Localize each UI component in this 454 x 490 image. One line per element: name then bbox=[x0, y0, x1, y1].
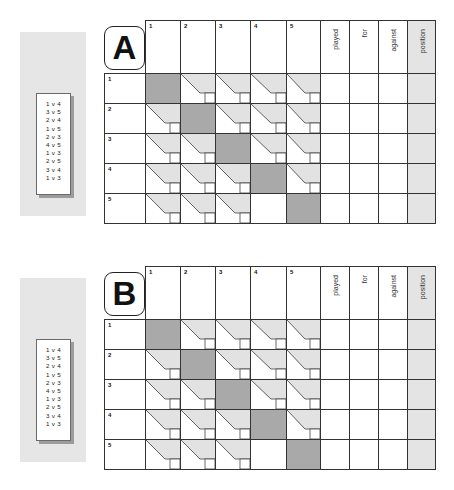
score-cell[interactable] bbox=[145, 133, 181, 164]
row-header-team-3: 3 bbox=[104, 133, 146, 164]
score-cell[interactable] bbox=[145, 379, 181, 410]
score-cell[interactable] bbox=[145, 193, 181, 224]
played-input-cell[interactable] bbox=[320, 193, 350, 224]
played-input-cell[interactable] bbox=[320, 319, 350, 350]
score-cell[interactable] bbox=[145, 439, 181, 470]
score-cell[interactable] bbox=[286, 73, 321, 104]
score-cell[interactable] bbox=[145, 349, 181, 380]
played-input-cell[interactable] bbox=[320, 163, 350, 194]
score-entry-icon bbox=[181, 320, 215, 349]
for-input-cell[interactable] bbox=[349, 133, 379, 164]
position-input-cell[interactable] bbox=[407, 103, 436, 134]
for-input-cell[interactable] bbox=[349, 409, 379, 440]
score-cell[interactable] bbox=[215, 319, 251, 350]
diagonal-blocked-cell bbox=[250, 409, 287, 440]
score-cell[interactable] bbox=[250, 319, 287, 350]
score-cell[interactable] bbox=[215, 349, 251, 380]
for-input-cell[interactable] bbox=[349, 379, 379, 410]
played-input-cell[interactable] bbox=[320, 379, 350, 410]
score-cell[interactable] bbox=[250, 103, 287, 134]
stat-header-label: against bbox=[390, 275, 397, 298]
score-entry-icon bbox=[181, 410, 215, 439]
score-cell[interactable] bbox=[180, 379, 216, 410]
for-input-cell[interactable] bbox=[349, 349, 379, 380]
score-cell[interactable] bbox=[215, 73, 251, 104]
fixture-item: 2 v 4 bbox=[37, 362, 70, 370]
against-input-cell[interactable] bbox=[378, 133, 408, 164]
for-input-cell[interactable] bbox=[349, 103, 379, 134]
fixture-item: 1 v 5 bbox=[37, 371, 70, 379]
empty-result-cell[interactable] bbox=[250, 439, 287, 470]
against-input-cell[interactable] bbox=[378, 379, 408, 410]
score-entry-icon bbox=[287, 410, 320, 439]
score-cell[interactable] bbox=[180, 319, 216, 350]
score-cell[interactable] bbox=[180, 73, 216, 104]
played-input-cell[interactable] bbox=[320, 73, 350, 104]
position-input-cell[interactable] bbox=[407, 73, 436, 104]
stat-header-label: against bbox=[390, 29, 397, 52]
against-input-cell[interactable] bbox=[378, 409, 408, 440]
score-cell[interactable] bbox=[286, 163, 321, 194]
score-cell[interactable] bbox=[145, 103, 181, 134]
stat-header-label: for bbox=[361, 29, 368, 37]
played-input-cell[interactable] bbox=[320, 103, 350, 134]
score-cell[interactable] bbox=[250, 133, 287, 164]
score-cell[interactable] bbox=[215, 193, 251, 224]
for-input-cell[interactable] bbox=[349, 193, 379, 224]
score-cell[interactable] bbox=[286, 133, 321, 164]
score-cell[interactable] bbox=[180, 409, 216, 440]
score-entry-icon bbox=[181, 134, 215, 163]
against-input-cell[interactable] bbox=[378, 349, 408, 380]
score-cell[interactable] bbox=[286, 319, 321, 350]
for-input-cell[interactable] bbox=[349, 439, 379, 470]
score-cell[interactable] bbox=[286, 349, 321, 380]
score-cell[interactable] bbox=[180, 163, 216, 194]
position-input-cell[interactable] bbox=[407, 409, 436, 440]
column-header-team-5: 5 bbox=[286, 266, 321, 320]
against-input-cell[interactable] bbox=[378, 163, 408, 194]
score-entry-icon bbox=[216, 350, 250, 379]
score-cell[interactable] bbox=[215, 409, 251, 440]
position-input-cell[interactable] bbox=[407, 379, 436, 410]
position-input-cell[interactable] bbox=[407, 439, 436, 470]
score-cell[interactable] bbox=[250, 349, 287, 380]
against-input-cell[interactable] bbox=[378, 319, 408, 350]
score-entry-icon bbox=[251, 104, 286, 133]
score-entry-icon bbox=[181, 164, 215, 193]
column-header-played: played bbox=[320, 20, 350, 74]
score-cell[interactable] bbox=[286, 103, 321, 134]
score-cell[interactable] bbox=[180, 133, 216, 164]
played-input-cell[interactable] bbox=[320, 439, 350, 470]
against-input-cell[interactable] bbox=[378, 103, 408, 134]
for-input-cell[interactable] bbox=[349, 319, 379, 350]
score-cell[interactable] bbox=[286, 409, 321, 440]
score-cell[interactable] bbox=[215, 163, 251, 194]
stat-header-label: position bbox=[418, 275, 425, 299]
score-cell[interactable] bbox=[180, 193, 216, 224]
column-header-team-4: 4 bbox=[250, 20, 287, 74]
against-input-cell[interactable] bbox=[378, 439, 408, 470]
played-input-cell[interactable] bbox=[320, 409, 350, 440]
score-cell[interactable] bbox=[145, 163, 181, 194]
column-header-team-1: 1 bbox=[145, 20, 181, 74]
empty-result-cell[interactable] bbox=[250, 193, 287, 224]
score-cell[interactable] bbox=[180, 439, 216, 470]
score-cell[interactable] bbox=[250, 379, 287, 410]
score-cell[interactable] bbox=[250, 73, 287, 104]
score-cell[interactable] bbox=[215, 103, 251, 134]
position-input-cell[interactable] bbox=[407, 163, 436, 194]
position-input-cell[interactable] bbox=[407, 319, 436, 350]
for-input-cell[interactable] bbox=[349, 73, 379, 104]
position-input-cell[interactable] bbox=[407, 349, 436, 380]
for-input-cell[interactable] bbox=[349, 163, 379, 194]
against-input-cell[interactable] bbox=[378, 73, 408, 104]
against-input-cell[interactable] bbox=[378, 193, 408, 224]
position-input-cell[interactable] bbox=[407, 133, 436, 164]
position-input-cell[interactable] bbox=[407, 193, 436, 224]
played-input-cell[interactable] bbox=[320, 133, 350, 164]
score-cell[interactable] bbox=[215, 439, 251, 470]
score-cell[interactable] bbox=[145, 409, 181, 440]
fixture-item: 1 v 3 bbox=[37, 420, 70, 428]
score-cell[interactable] bbox=[286, 379, 321, 410]
played-input-cell[interactable] bbox=[320, 349, 350, 380]
